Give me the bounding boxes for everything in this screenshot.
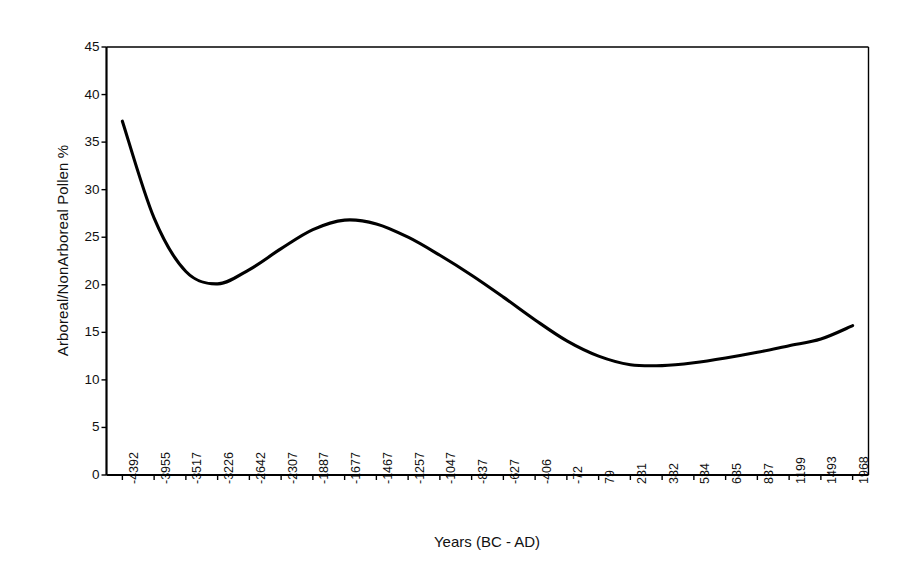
axis-ticks [102,47,853,480]
pollen-line-chart: Arboreal/NonArboreal Pollen % Years (BC … [0,0,898,575]
pollen-data-line [122,121,852,366]
axis-lines [107,47,869,475]
plot-area [0,0,898,575]
